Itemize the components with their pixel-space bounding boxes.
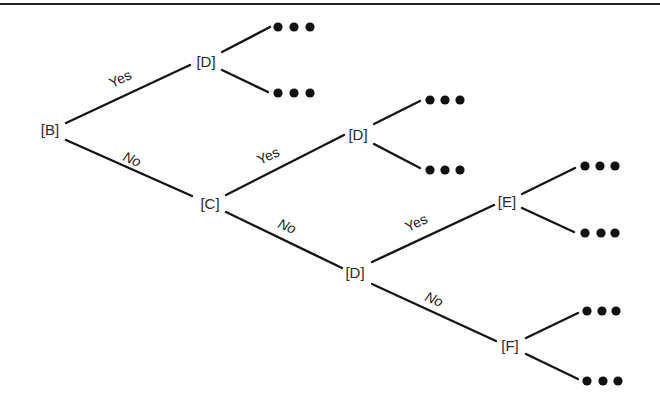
- edge-labels: YesNoYesNoYesNo: [107, 67, 446, 311]
- node-d3: [D]: [345, 264, 364, 281]
- continuation-line: [222, 27, 270, 52]
- edge-label-yes: Yes: [403, 211, 430, 235]
- ellipsis-icon: [582, 376, 622, 385]
- continuation-branches: [222, 22, 623, 385]
- node-d1: [D]: [196, 53, 215, 70]
- decision-tree-diagram: YesNoYesNoYesNo [B][D][C][D][D][E][F]: [0, 0, 660, 408]
- ellipsis-icon: [273, 22, 314, 31]
- node-e: [E]: [498, 193, 516, 210]
- ellipsis-icon: [425, 165, 464, 174]
- continuation-line: [522, 208, 574, 232]
- edge-label-no: No: [276, 215, 299, 237]
- node-b: [B]: [41, 121, 59, 138]
- continuation-line: [374, 144, 420, 168]
- ellipsis-icon: [580, 228, 619, 237]
- ellipsis-icon: [582, 306, 620, 315]
- edge-d3-e: [372, 205, 494, 262]
- node-f: [F]: [501, 337, 519, 354]
- continuation-line: [522, 168, 575, 194]
- edge-label-yes: Yes: [107, 67, 134, 91]
- ellipsis-icon: [425, 95, 464, 104]
- edge-label-no: No: [423, 288, 446, 310]
- ellipsis-icon: [580, 161, 619, 170]
- node-d2: [D]: [348, 126, 367, 143]
- continuation-line: [374, 101, 420, 124]
- edge-c-d2: [226, 135, 344, 195]
- node-c: [C]: [200, 195, 219, 212]
- ellipsis-icon: [273, 88, 314, 97]
- continuation-line: [222, 70, 268, 92]
- continuation-line: [526, 354, 578, 379]
- edge-label-yes: Yes: [255, 144, 282, 168]
- continuation-line: [526, 313, 578, 338]
